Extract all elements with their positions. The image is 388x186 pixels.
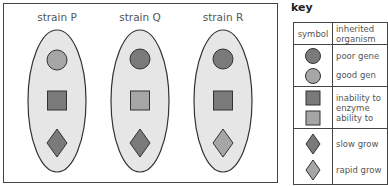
key-header-row: symbol inherited organism [294,23,388,45]
square-light-icon [306,111,320,125]
key-title: key [291,1,313,14]
key-circle-symbols [294,45,333,87]
key-diamond-descriptions: slow grow rapid grow [333,129,388,185]
key-header-symbol: symbol [294,23,333,45]
strain-q-label: strain Q [105,11,175,23]
key-rapid-growth: rapid grow [336,165,387,175]
circle-light-icon [306,68,321,83]
strain-r-organism [194,30,252,172]
key-table: symbol inherited organism poor gene good… [293,22,388,185]
strain-r-square-dark [214,91,233,110]
key-row-squares: inability to enzyme ability to [294,87,388,129]
strain-q-square-light [131,91,150,110]
strain-r-label: strain R [188,11,258,23]
key-good-gene: good gen [336,70,387,80]
key-square-descriptions: inability to enzyme ability to [333,87,388,129]
key-row-circles: poor gene good gen [294,45,388,87]
key-enzyme: enzyme [336,103,387,113]
key-diamond-symbols [294,129,333,185]
key-square-symbols [294,87,333,129]
strain-p-circle-light [47,50,67,70]
diamond-dark-icon [306,134,320,154]
square-dark-icon [306,91,320,105]
key-slow-growth: slow grow [336,139,387,149]
strain-r-circle-dark [213,49,233,69]
strain-p-square-dark [48,91,67,110]
key-poor-gene: poor gene [336,51,387,61]
key-circle-descriptions: poor gene good gen [333,45,388,87]
strains-diagram [0,0,280,186]
strain-q-organism [111,30,169,172]
strain-q-circle-dark [130,49,150,69]
strain-p-label: strain P [22,11,92,23]
strain-p-organism [28,30,86,172]
key-inability: inability to [336,93,387,103]
key-header-description: inherited organism [333,23,388,45]
circle-dark-icon [306,48,321,63]
diamond-light-icon [306,160,320,180]
key-ability: ability to [336,113,387,123]
key-row-diamonds: slow grow rapid grow [294,129,388,185]
